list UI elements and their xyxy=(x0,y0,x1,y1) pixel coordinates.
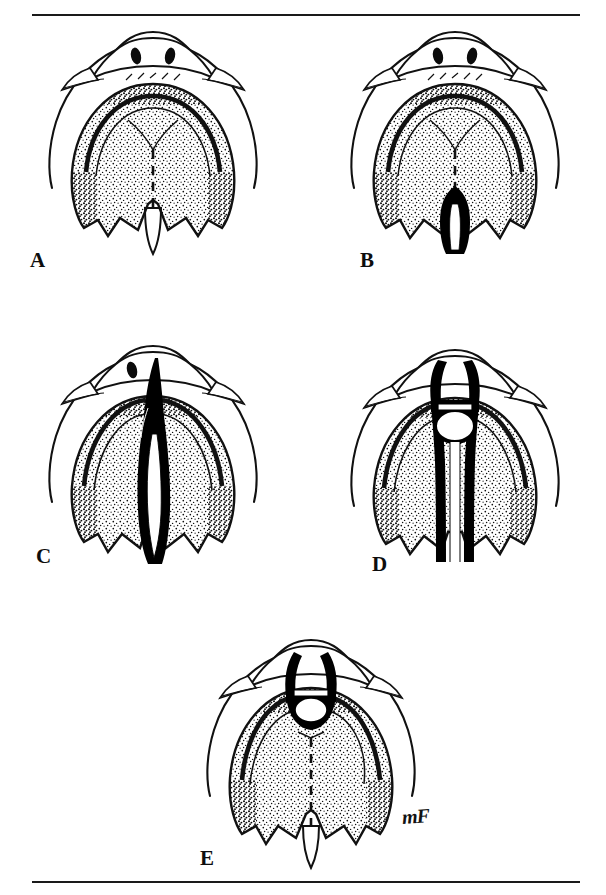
palate-illustration-c xyxy=(28,338,278,588)
panel-label-e: E xyxy=(200,848,215,869)
panel-c: C xyxy=(28,338,278,588)
panel-label-a: A xyxy=(30,250,46,271)
panel-label-b: B xyxy=(360,250,375,271)
palate-illustration-a xyxy=(28,22,278,272)
palate-illustration-d xyxy=(330,342,580,592)
panel-label-c: C xyxy=(36,546,52,567)
panel-d: D xyxy=(330,342,580,592)
figure-root: A xyxy=(0,0,606,895)
artist-signature: mF xyxy=(401,804,429,829)
bottom-divider-rule xyxy=(32,881,580,883)
panel-a: A xyxy=(28,22,278,282)
panel-label-d: D xyxy=(372,554,388,575)
panel-e: mF E xyxy=(178,630,448,880)
palate-illustration-e xyxy=(178,630,448,880)
palate-illustration-b xyxy=(330,22,580,272)
top-divider-rule xyxy=(32,14,580,16)
panel-b: B xyxy=(330,22,580,282)
